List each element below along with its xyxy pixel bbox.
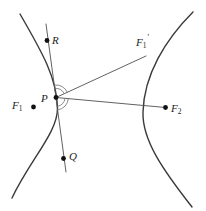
label-P: P: [41, 92, 48, 105]
segment-P-F1-prime: [56, 56, 146, 98]
angle-arc-lower-outer: [58, 99, 69, 110]
point-dot-F1: [31, 105, 36, 110]
label-Q-text: Q: [69, 150, 77, 162]
hyperbola-reflection-diagram: R F1′ P F1 F2 Q: [0, 0, 206, 211]
prime-mark: ′: [147, 33, 149, 42]
label-F1-prime: F1′: [136, 36, 149, 49]
label-F2-base: F: [171, 102, 178, 114]
label-F1-prime-base: F: [136, 36, 143, 48]
label-F1-base: F: [12, 99, 19, 111]
label-Q: Q: [69, 150, 77, 163]
label-R: R: [52, 34, 59, 47]
point-dot-Q: [61, 156, 66, 161]
angle-arc-lower-inner: [57, 98, 65, 106]
segment-P-F2: [56, 98, 166, 108]
label-F2: F2: [171, 102, 181, 115]
hyperbola-right-branch: [143, 12, 193, 207]
point-dot-R: [45, 38, 50, 43]
label-F1: F1: [12, 99, 22, 112]
label-F1-sub: 1: [19, 104, 23, 113]
point-dot-F2: [163, 105, 168, 110]
label-P-text: P: [41, 92, 48, 104]
label-F2-sub: 2: [178, 107, 182, 116]
label-F1-prime-sub: 1: [143, 41, 147, 50]
label-R-text: R: [52, 34, 59, 46]
point-dot-P: [54, 95, 59, 100]
